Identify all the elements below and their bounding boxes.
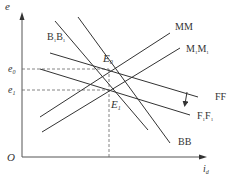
m1m1-label: M1M1	[186, 43, 209, 55]
x-axis-label: id	[203, 163, 210, 175]
e1-label: e1	[8, 84, 15, 96]
e0-point-label: E0	[102, 52, 113, 65]
e1-point-label: E1	[110, 98, 121, 111]
origin-label: O	[7, 151, 15, 163]
curve-bb	[78, 17, 170, 143]
diagram-canvas: e O id e0 e1 E0 E1 MM M1M1 B1B1 BB FF F1…	[0, 0, 238, 181]
bb-label: BB	[178, 136, 192, 147]
mm-label: MM	[175, 21, 193, 32]
y-axis-arrow-icon	[20, 12, 25, 20]
e0-label: e0	[8, 63, 15, 75]
f1f1-label: F1F1	[197, 110, 214, 122]
x-axis-arrow-icon	[199, 155, 207, 160]
y-axis-label: e	[5, 0, 10, 12]
ff-label: FF	[215, 91, 227, 102]
b1b1-label: B1B1	[47, 31, 66, 43]
